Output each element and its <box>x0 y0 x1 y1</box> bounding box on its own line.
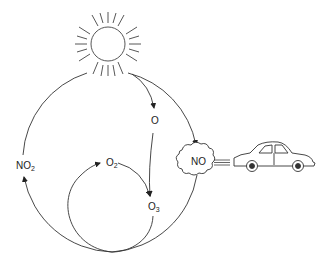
node-o: O <box>151 116 159 126</box>
car-icon <box>234 142 315 172</box>
arrow-o2-to-o3 <box>118 163 150 196</box>
arrow-o-to-o3 <box>149 133 153 196</box>
arc-sun-to-no <box>128 73 196 145</box>
arc-bottom-to-no2 <box>24 177 112 252</box>
node-o3: O3 <box>148 202 160 213</box>
arrow-sun-to-o <box>132 74 154 108</box>
exhaust-lines-icon <box>214 160 230 165</box>
arc-no2-to-sun <box>23 73 87 155</box>
arc-no-to-bottom <box>112 175 197 252</box>
arc-o3-to-bottom <box>112 216 153 252</box>
sun-icon <box>75 12 141 76</box>
smog-cycle-diagram <box>0 0 332 266</box>
arrow-inner-to-o2 <box>68 163 112 252</box>
node-o2: O2 <box>106 158 118 169</box>
node-no: NO <box>191 157 206 167</box>
node-no2: NO2 <box>16 161 35 172</box>
